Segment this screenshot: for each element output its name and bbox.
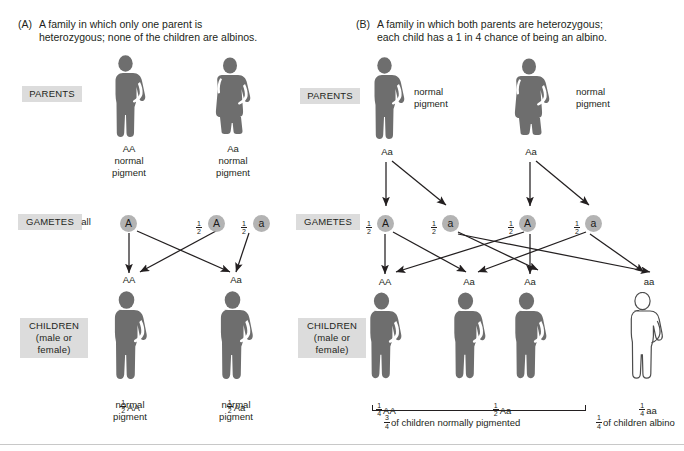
- panel-b-parents-label: PARENTS: [300, 88, 360, 104]
- panel-b-gamete-3-prefix: 12: [508, 218, 515, 236]
- panel-a-parent-2-figure: [211, 57, 255, 145]
- panel-b-child-3-genotype: Aa: [507, 276, 553, 288]
- panel-b-child-2-genotype: Aa: [446, 276, 492, 288]
- panel-b-gamete-2-prefix: 12: [431, 218, 438, 236]
- panel-a-tag: (A): [18, 18, 32, 30]
- bottom-divider: [0, 444, 684, 445]
- panel-b-gamete-1-prefix: 12: [366, 218, 373, 236]
- panel-a-child-2-figure: [214, 291, 258, 389]
- panel-a-parents-label: PARENTS: [22, 86, 82, 102]
- panel-a-gamete-3-prefix: 12: [241, 218, 248, 236]
- panel-a-gamete-3: a: [253, 215, 270, 232]
- panel-b-parent-1-phenotype: normal pigment: [414, 86, 472, 109]
- panel-b-caption: A family in which both parents are heter…: [377, 18, 609, 44]
- panel-b-summary-albino: 14of children albino: [596, 414, 675, 430]
- panel-b-parent-2-phenotype: normal pigment: [576, 86, 634, 109]
- panel-a-parent-1-figure: [107, 55, 151, 145]
- panel-b-gamete-2: a: [442, 215, 459, 232]
- panel-b-gametes-label: GAMETES: [296, 214, 360, 230]
- panel-b-parent-2-figure: [510, 58, 554, 146]
- panel-a-gamete-2: A: [208, 215, 225, 232]
- panel-b-normal-bracket: [372, 405, 586, 411]
- panel-a-child-1-figure: [108, 291, 152, 389]
- panel-b-summary-albino-text: of children albino: [603, 417, 675, 428]
- panel-b-parent-1-figure: [366, 57, 410, 147]
- panel-a-parent-1-genotype: AA: [104, 143, 154, 155]
- panel-b-title: (B) A family in which both parents are h…: [356, 18, 656, 44]
- panel-b-child-1-figure: [364, 292, 406, 388]
- panel-b-child-4-figure: [625, 292, 667, 388]
- panel-b-child-3-figure: [509, 292, 551, 388]
- panel-b-child-2-figure: [448, 292, 490, 388]
- panel-a-title: (A) A family in which only one parent is…: [18, 18, 308, 44]
- panel-b-tag: (B): [356, 18, 370, 30]
- panel-b-child-1-genotype: AA: [362, 276, 408, 288]
- panel-a-caption: A family in which only one parent is het…: [39, 18, 271, 44]
- panel-a-gamete-1-prefix: all: [75, 216, 97, 228]
- panel-a-gamete-1: A: [120, 215, 137, 232]
- panel-a-parent-2-genotype: Aa: [208, 143, 258, 155]
- panel-a-parent-2-phenotype: normal pigment: [203, 155, 263, 178]
- panel-b-child-4-genotype: aa: [626, 276, 672, 288]
- panel-b-parent-2-genotype: Aa: [508, 146, 554, 158]
- panel-a-child-2-genotype: Aa: [212, 274, 260, 286]
- panel-b-summary-normal-text: of children normally pigmented: [391, 417, 520, 428]
- panel-a-gamete-2-prefix: 12: [196, 218, 203, 236]
- panel-a-child-1-genotype: AA: [105, 274, 153, 286]
- panel-b-summary-normal: 34of children normally pigmented: [384, 414, 520, 430]
- panel-a-children-label: CHILDREN (male or female): [20, 318, 88, 358]
- panel-b-gamete-4: a: [585, 215, 602, 232]
- panel-a-gametes-label: GAMETES: [18, 214, 82, 230]
- panel-a-child-1-phenotype: normal pigment: [100, 399, 160, 422]
- panel-a-child-2-phenotype: normal pigment: [206, 399, 266, 422]
- panel-b-gamete-1: A: [377, 215, 394, 232]
- panel-b-parent-1-genotype: Aa: [364, 146, 410, 158]
- panel-b-gamete-4-prefix: 12: [574, 218, 581, 236]
- panel-b-children-label: CHILDREN (male or female): [298, 318, 366, 358]
- panel-a-parent-1-phenotype: normal pigment: [99, 155, 159, 178]
- panel-b-gamete-3: A: [519, 215, 536, 232]
